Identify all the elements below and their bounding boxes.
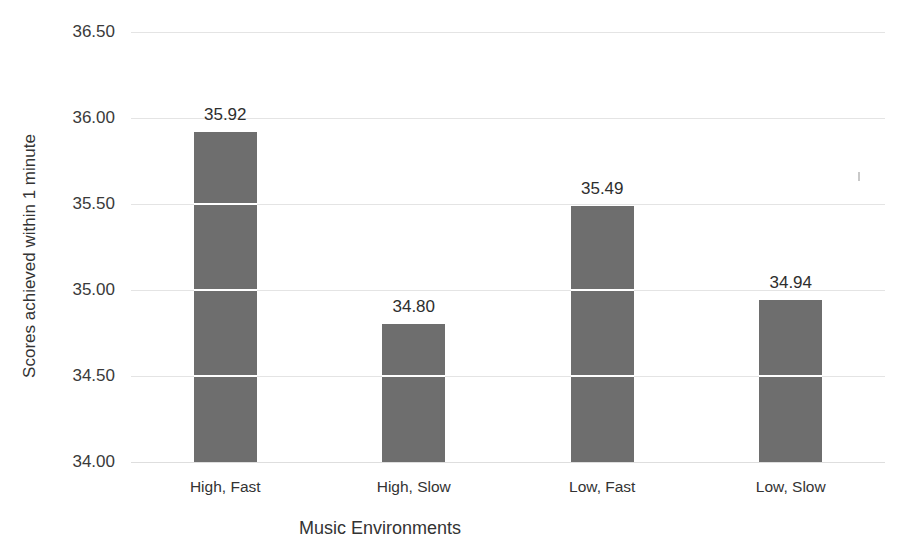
plot-area	[131, 32, 885, 462]
bar-gridline-overlay	[571, 289, 634, 291]
bar-value-label: 34.80	[392, 297, 435, 317]
y-tick-label: 34.50	[45, 366, 115, 386]
x-tick-label: Low, Slow	[756, 478, 826, 496]
y-tick-label: 36.50	[45, 22, 115, 42]
bar[interactable]	[194, 132, 257, 462]
bar[interactable]	[759, 300, 822, 462]
gridline	[131, 462, 885, 463]
y-tick-label: 35.00	[45, 280, 115, 300]
bar-gridline-overlay	[194, 203, 257, 205]
x-axis-title: Music Environments	[130, 518, 630, 539]
bar-gridline-overlay	[194, 375, 257, 377]
x-tick-label: High, Fast	[190, 478, 261, 496]
bar-value-label: 35.92	[204, 105, 247, 125]
bar[interactable]	[571, 206, 634, 462]
scan-artifact	[858, 172, 860, 181]
x-tick-label: Low, Fast	[569, 478, 635, 496]
bar-gridline-overlay	[759, 375, 822, 377]
y-tick-label: 34.00	[45, 452, 115, 472]
bar-value-label: 34.94	[769, 273, 812, 293]
bar-gridline-overlay	[194, 289, 257, 291]
bar-gridline-overlay	[571, 375, 634, 377]
bar[interactable]	[382, 324, 445, 462]
bar-gridline-overlay	[382, 375, 445, 377]
chart-title	[0, 0, 899, 8]
y-axis-tick-labels: 36.5036.0035.5035.0034.5034.00	[35, 32, 115, 462]
y-tick-label: 35.50	[45, 194, 115, 214]
bar-chart: Scores achieved within 1 minute 36.5036.…	[0, 0, 899, 558]
gridline	[131, 32, 885, 33]
x-tick-label: High, Slow	[377, 478, 451, 496]
y-tick-label: 36.00	[45, 108, 115, 128]
bar-value-label: 35.49	[581, 179, 624, 199]
